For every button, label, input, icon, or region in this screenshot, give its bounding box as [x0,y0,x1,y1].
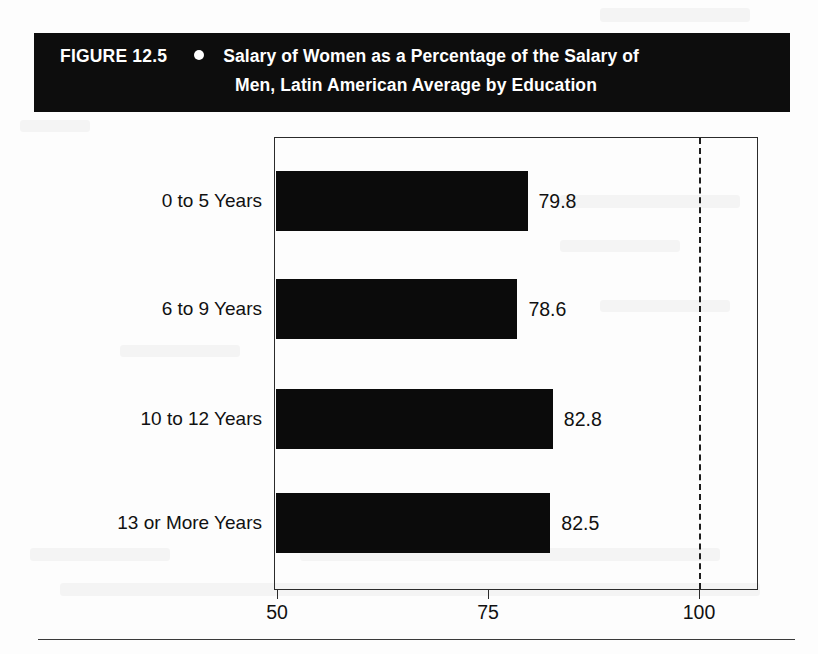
value-label-0-to-5-years: 79.8 [539,190,577,213]
filled-circle-bullet-icon [194,50,204,60]
reference-line-100 [699,138,701,589]
x-axis-label-100: 100 [683,601,716,624]
figure-page: FIGURE 12.5 Salary of Women as a Percent… [0,0,818,654]
page-bottom-rule [38,639,795,640]
x-axis-tick-50 [277,590,278,599]
figure-title-text-1: Salary of Women as a Percentage of the S… [223,46,639,66]
value-label-13-or-more-years: 82.5 [561,512,599,535]
figure-title-banner: FIGURE 12.5 Salary of Women as a Percent… [34,33,790,112]
page-artifact [600,8,750,22]
page-artifact [20,120,90,132]
bar-10-to-12-years [276,389,553,449]
x-axis-label-50: 50 [266,601,288,624]
value-label-6-to-9-years: 78.6 [528,298,566,321]
plot-area [274,137,758,590]
x-axis-label-75: 75 [477,601,499,624]
category-label-0-to-5-years: 0 to 5 Years [32,190,262,212]
page-artifact [120,345,240,357]
category-label-13-or-more-years: 13 or More Years [32,512,262,534]
x-axis-tick-75 [488,590,489,599]
figure-number: FIGURE 12.5 [60,46,167,66]
bar-6-to-9-years [276,279,517,339]
bar-13-or-more-years [276,493,550,553]
value-label-10-to-12-years: 82.8 [564,408,602,431]
figure-title-line-1: FIGURE 12.5 Salary of Women as a Percent… [60,42,772,71]
bar-0-to-5-years [276,171,528,231]
x-axis-tick-100 [699,590,700,599]
page-artifact [30,548,170,561]
figure-title-line-2: Men, Latin American Average by Education [60,71,772,100]
category-label-10-to-12-years: 10 to 12 Years [32,408,262,430]
category-label-6-to-9-years: 6 to 9 Years [32,298,262,320]
